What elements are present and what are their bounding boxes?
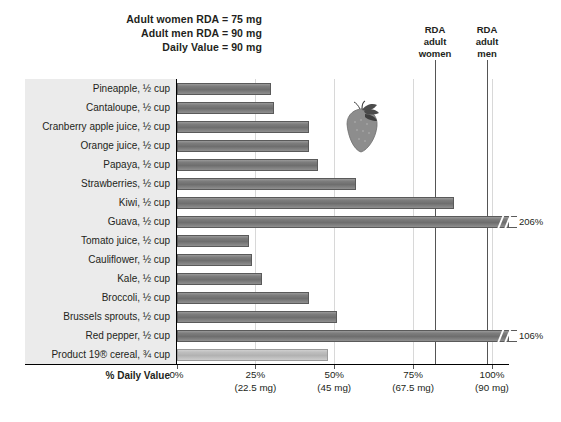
category-label: Papaya, ½ cup xyxy=(25,155,170,175)
annotation-rda-adult-men: RDA adult men xyxy=(450,24,524,59)
bar-row: Cauliflower, ½ cup xyxy=(0,250,561,270)
category-label: Product 19® cereal, ¾ cup xyxy=(25,345,170,365)
bar-row: Kale, ½ cup xyxy=(0,269,561,289)
x-tick-mg: (90 mg) xyxy=(452,382,532,395)
category-label: Pineapple, ½ cup xyxy=(25,79,170,99)
x-tick-label-25%: 25%(22.5 mg) xyxy=(215,369,295,394)
bar-row: Product 19® cereal, ¾ cup xyxy=(0,345,561,365)
bar-row: Red pepper, ½ cup106% xyxy=(0,326,561,346)
bar xyxy=(177,197,454,210)
x-tick-label-50%: 50%(45 mg) xyxy=(294,369,374,394)
annotation-men-line3: men xyxy=(450,48,524,60)
category-label: Strawberries, ½ cup xyxy=(25,174,170,194)
bar-row: Strawberries, ½ cup xyxy=(0,174,561,194)
bar xyxy=(177,235,249,248)
category-label: Orange juice, ½ cup xyxy=(25,136,170,156)
bar-row: Pineapple, ½ cup xyxy=(0,79,561,99)
bar-row: Cantaloupe, ½ cup xyxy=(0,98,561,118)
bar xyxy=(177,178,356,191)
bar-value-label: 106% xyxy=(519,326,543,346)
category-label: Cranberry apple juice, ½ cup xyxy=(25,117,170,137)
category-label: Tomato juice, ½ cup xyxy=(25,231,170,251)
category-label: Kale, ½ cup xyxy=(25,269,170,289)
category-label: Cantaloupe, ½ cup xyxy=(25,98,170,118)
axis-break-marker xyxy=(495,213,517,230)
bar xyxy=(177,330,509,343)
category-label: Guava, ½ cup xyxy=(25,212,170,232)
bar-row: Kiwi, ½ cup xyxy=(0,193,561,213)
rda-note-daily-value: Daily Value = 90 mg xyxy=(0,40,262,54)
vitamin-c-bar-chart: Adult women RDA = 75 mg Adult men RDA = … xyxy=(0,0,561,422)
bar xyxy=(177,140,309,153)
bar-row: Orange juice, ½ cup xyxy=(0,136,561,156)
bar xyxy=(177,216,509,229)
category-label: Cauliflower, ½ cup xyxy=(25,250,170,270)
x-tick-label-0%: 0% xyxy=(137,369,217,382)
bar xyxy=(177,273,262,286)
rda-notes: Adult women RDA = 75 mg Adult men RDA = … xyxy=(0,12,262,55)
x-tick-mg: (22.5 mg) xyxy=(215,382,295,395)
bar xyxy=(177,121,309,134)
annotation-men-line1: RDA xyxy=(450,24,524,36)
x-tick-label-100%: 100%(90 mg) xyxy=(452,369,532,394)
bar xyxy=(177,292,309,305)
x-tick-mg: (45 mg) xyxy=(294,382,374,395)
x-tick-percent: 75% xyxy=(373,369,453,382)
bar xyxy=(177,311,337,324)
x-tick-percent: 0% xyxy=(137,369,217,382)
category-label: Brussels sprouts, ½ cup xyxy=(25,307,170,327)
bar-row: Guava, ½ cup206% xyxy=(0,212,561,232)
bar-row: Papaya, ½ cup xyxy=(0,155,561,175)
rda-note-men: Adult men RDA = 90 mg xyxy=(0,26,262,40)
bar xyxy=(177,349,328,362)
x-tick-mg: (67.5 mg) xyxy=(373,382,453,395)
x-tick-percent: 25% xyxy=(215,369,295,382)
bar xyxy=(177,159,318,172)
bar xyxy=(177,254,252,267)
bar-row: Brussels sprouts, ½ cup xyxy=(0,307,561,327)
bar-row: Cranberry apple juice, ½ cup xyxy=(0,117,561,137)
bar xyxy=(177,102,274,115)
rda-note-women: Adult women RDA = 75 mg xyxy=(0,12,262,26)
category-label: Kiwi, ½ cup xyxy=(25,193,170,213)
category-label: Red pepper, ½ cup xyxy=(25,326,170,346)
bar-value-label: 206% xyxy=(519,212,543,232)
x-tick-percent: 100% xyxy=(452,369,532,382)
x-tick-percent: 50% xyxy=(294,369,374,382)
x-tick-label-75%: 75%(67.5 mg) xyxy=(373,369,453,394)
annotation-men-line2: adult xyxy=(450,36,524,48)
bar-row: Tomato juice, ½ cup xyxy=(0,231,561,251)
bar xyxy=(177,83,271,96)
category-label: Broccoli, ½ cup xyxy=(25,288,170,308)
bar-row: Broccoli, ½ cup xyxy=(0,288,561,308)
axis-break-marker xyxy=(495,327,517,344)
